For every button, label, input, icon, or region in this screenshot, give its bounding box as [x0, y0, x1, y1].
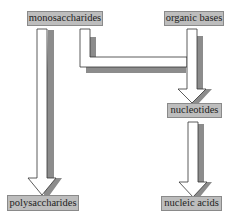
node-nucleic-acids: nucleic acids: [161, 196, 222, 211]
node-organic-bases: organic bases: [164, 11, 224, 26]
node-monosaccharides: monosaccharides: [27, 11, 103, 26]
arrow-nucleotides-to-nucleic-acids: [179, 122, 212, 198]
diagram-canvas: monosaccharides organic bases nucleotide…: [0, 0, 242, 221]
node-polysaccharides: polysaccharides: [7, 195, 79, 211]
arrow-monosaccharides-to-polysaccharides: [28, 29, 62, 196]
node-nucleotides: nucleotides: [167, 103, 222, 118]
arrow-monosaccharides-to-nucleotides: [80, 29, 187, 73]
